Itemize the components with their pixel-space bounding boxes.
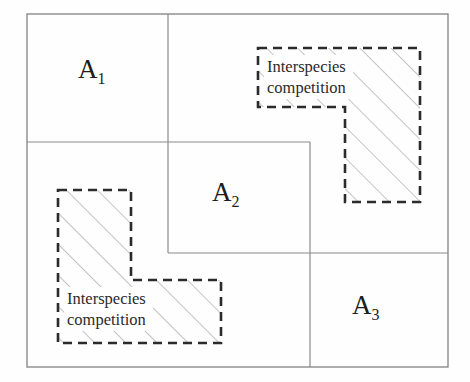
overlay-top-right-label-line1: Interspecies (267, 57, 346, 76)
figure-container: A1 A2 A3 Interspecies competition (0, 0, 470, 382)
region-label-a1-subscript: 1 (98, 70, 106, 87)
region-label-a2-base: A (212, 177, 232, 207)
region-label-a3-subscript: 3 (372, 306, 380, 323)
region-label-a1-base: A (78, 54, 98, 84)
overlay-bottom-left-label-line1: Interspecies (67, 289, 146, 308)
region-label-a3-base: A (352, 290, 372, 320)
region-label-a2-subscript: 2 (232, 193, 240, 210)
partition-diagram: A1 A2 A3 Interspecies competition (0, 0, 470, 382)
overlay-bottom-left-label-line2: competition (67, 310, 146, 329)
overlay-top-right-label-line2: competition (267, 78, 346, 97)
